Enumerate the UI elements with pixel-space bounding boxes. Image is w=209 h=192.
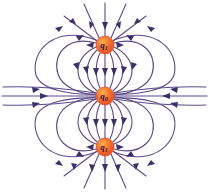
charge-top: q1: [96, 36, 114, 54]
field-line-loop-tl-inner: [57, 41, 96, 95]
field-line-loop-tr-inner: [114, 41, 153, 95]
arrow-icon: [147, 160, 155, 166]
arrow-icon: [131, 62, 137, 70]
arrow-icon: [102, 68, 108, 76]
arrow-icon: [89, 164, 95, 172]
arrow-icon: [121, 117, 127, 125]
arrow-icon: [115, 164, 121, 172]
arrow-icon: [126, 151, 134, 157]
arrow-icon: [121, 66, 127, 74]
arrow-icon: [102, 22, 108, 30]
arrow-icon: [73, 62, 79, 70]
electric-field-diagram: q1 q0 q1: [0, 0, 209, 192]
arrow-icon: [116, 144, 124, 150]
arrow-icon: [76, 151, 84, 157]
charge-bottom: q1: [96, 138, 114, 156]
field-line-loop-br-inner: [114, 97, 153, 151]
arrow-icon: [102, 164, 108, 172]
arrow-icon: [83, 117, 89, 125]
arrow-icon: [55, 160, 63, 166]
arrow-icon: [162, 93, 170, 99]
arrow-icon: [86, 42, 94, 48]
arrow-icon: [32, 87, 40, 93]
arrow-icon: [55, 26, 63, 32]
arrow-icon: [40, 93, 48, 99]
arrow-icon: [147, 26, 155, 32]
field-line-loop-bl-inner: [57, 97, 96, 151]
arrow-icon: [102, 119, 108, 127]
arrow-icon: [86, 144, 94, 150]
arrow-icon: [170, 87, 178, 93]
arrow-icon: [83, 66, 89, 74]
arrow-icon: [126, 35, 134, 41]
field-line-figure: q1 q0 q1: [0, 0, 209, 192]
arrow-icon: [111, 68, 117, 76]
arrow-icon: [116, 42, 124, 48]
arrow-icon: [93, 68, 99, 76]
charge-middle: q0: [96, 87, 114, 105]
arrow-icon: [76, 35, 84, 41]
arrow-icon: [93, 119, 99, 127]
arrow-icon: [111, 119, 117, 127]
